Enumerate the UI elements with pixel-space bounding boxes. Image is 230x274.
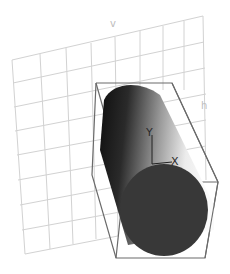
3d-viewport[interactable]: v h Y X [0,0,230,274]
cylinder-object [100,85,214,256]
grid-axis-label-v: v [110,18,116,29]
grid-axis-label-h: h [201,100,207,111]
scene-canvas[interactable] [0,0,230,274]
gizmo-x-axis-label: X [171,155,179,168]
cylinder-end-cap [120,164,208,256]
gizmo-y-axis-label: Y [146,126,153,139]
